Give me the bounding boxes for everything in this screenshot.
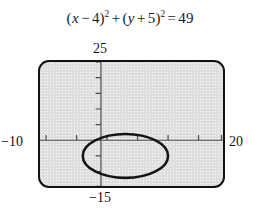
equation-open-paren-2: ( (122, 10, 127, 26)
equation-minus-operator: − (79, 10, 92, 26)
screen-bezel (38, 60, 225, 188)
y-min-label: −15 (0, 190, 200, 205)
equation-rhs-value: 49 (178, 10, 193, 26)
equation-variable-y: y (128, 10, 135, 26)
equation-plus-operator: + (109, 10, 122, 26)
equation-inner-plus-operator: + (135, 10, 148, 26)
y-axis-group (96, 62, 101, 187)
equation-expression: (x−4)2+(y+5)2=49 (0, 8, 260, 28)
x-axis-group (40, 135, 223, 140)
x-min-label: −10 (1, 134, 23, 149)
x-max-label: 20 (229, 134, 243, 149)
graph-plot-area (40, 62, 223, 187)
equation-equals-sign: = (165, 10, 178, 26)
equation-variable-x: x (72, 10, 79, 26)
y-max-label: 25 (0, 41, 200, 56)
equation-open-paren-1: ( (66, 10, 71, 26)
graphing-calculator-screen (38, 60, 225, 188)
